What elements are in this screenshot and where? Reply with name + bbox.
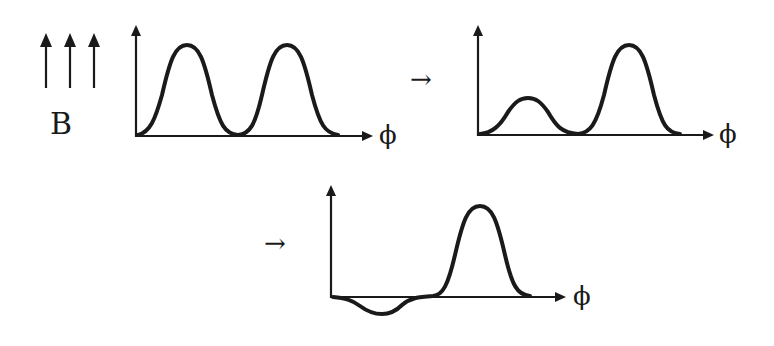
magnetic-field-arrows [40, 33, 100, 88]
panel-step-3: ϕ [326, 185, 591, 314]
phi-axis-label: ϕ [379, 120, 397, 150]
y-axis [131, 25, 141, 137]
phi-axis-label: ϕ [719, 119, 737, 149]
wavefunction-curve [480, 45, 680, 134]
wavefunction-curve [138, 45, 338, 135]
up-arrow-icon [64, 33, 76, 88]
up-arrow-icon [40, 33, 52, 88]
y-axis [326, 185, 336, 298]
field-label: B [50, 106, 72, 141]
panel-step-2: ϕ [473, 25, 737, 149]
phi-axis-label: ϕ [573, 281, 591, 311]
panel-initial: ϕ [131, 25, 397, 150]
up-arrow-icon [88, 33, 100, 88]
diagram-canvas: B ϕ → ϕ → [0, 0, 774, 346]
y-axis [473, 25, 483, 136]
transition-arrow-icon: → [264, 228, 286, 258]
transition-arrow-icon: → [410, 64, 432, 94]
